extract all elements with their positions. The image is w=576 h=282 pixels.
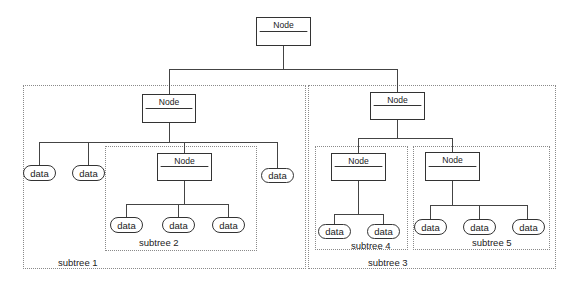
subtree-3-node: Node [370,92,425,120]
connector [358,138,453,139]
connector [169,69,170,94]
data-leaf: data [212,217,245,233]
data-leaf: data [463,219,496,235]
data-leaf: data [318,224,351,239]
connector [184,180,185,204]
subtree-3-label: subtree 3 [368,257,408,268]
node-label: Node [146,95,193,109]
connector [358,138,359,153]
data-leaf: data [261,168,294,183]
subtree-1-node: Node [142,94,196,123]
connector [88,142,89,165]
data-leaf: data [414,219,447,235]
node-label: Node [161,154,209,167]
connector [479,205,480,219]
connector [334,214,384,215]
data-leaf: data [72,165,105,181]
subtree-4-node: Node [331,153,386,181]
connector [383,214,384,224]
subtree-2-label: subtree 2 [139,237,179,248]
root-node: Node [256,17,311,46]
connector [397,69,398,92]
subtree-2-node: Node [157,153,212,181]
connector [430,205,431,219]
subtree-5-node: Node [425,152,480,181]
node-label: Node [429,153,477,167]
connector [358,180,359,214]
data-leaf: data [110,217,143,233]
connector [527,205,528,219]
data-leaf: data [23,165,56,181]
subtree-5-label: subtree 5 [472,237,512,248]
data-leaf: data [512,219,545,235]
connector [452,138,453,152]
connector [397,119,398,138]
connector [184,142,185,153]
connector [39,142,278,143]
connector [169,122,170,142]
connector [283,45,284,69]
node-label: Node [260,18,308,32]
connector [228,204,229,217]
connector [334,214,335,224]
subtree-4-label: subtree 4 [351,240,391,251]
data-leaf: data [162,217,195,233]
subtree-1-label: subtree 1 [58,257,98,268]
tree-diagram: subtree 1 subtree 2 subtree 3 subtree 4 … [0,0,576,282]
connector [39,142,40,165]
node-label: Node [374,93,422,106]
connector [178,204,179,217]
connector [169,69,398,70]
connector [126,204,127,217]
connector [277,142,278,168]
node-label: Node [335,154,383,167]
connector [452,180,453,205]
data-leaf: data [367,224,400,239]
